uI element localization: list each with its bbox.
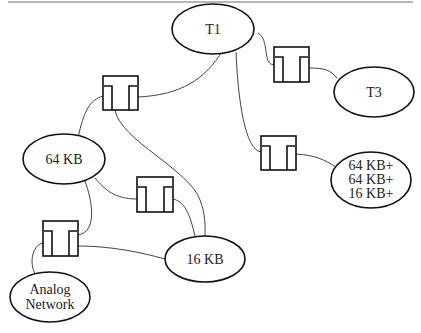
link-sw5-t3 — [309, 68, 337, 78]
link-sw3-16kb — [78, 246, 165, 259]
node-analog-line-2: Network — [26, 297, 75, 312]
node-t1-label: T1 — [205, 22, 221, 37]
node-t3[interactable]: T3 — [334, 67, 414, 117]
link-64kb-sw2 — [95, 178, 137, 199]
node-16kb-label: 16 KB — [187, 252, 224, 267]
link-64kb-sw3 — [78, 181, 92, 235]
node-mixed-rates[interactable]: 64 KB+ 64 KB+ 16 KB+ — [331, 152, 411, 208]
node-64kb-label: 64 KB — [46, 152, 83, 167]
switch-sw1[interactable] — [103, 76, 138, 110]
switch-sw5[interactable] — [274, 47, 309, 82]
node-t3-label: T3 — [366, 85, 382, 100]
switch-icon — [137, 177, 173, 212]
link-t1-sw5 — [258, 33, 274, 65]
node-64kb[interactable]: 64 KB — [23, 134, 105, 184]
switch-icon — [103, 76, 138, 110]
link-t1-sw4 — [236, 52, 261, 152]
switch-icon — [43, 221, 78, 256]
link-sw2-16kb — [173, 199, 195, 236]
network-diagram: T1 T3 64 KB 16 KB 64 KB+ 64 KB+ 16 KB+ A… — [0, 0, 421, 333]
switch-icon — [261, 136, 296, 170]
link-t1-sw1 — [138, 50, 223, 97]
switch-sw4[interactable] — [261, 136, 296, 170]
switch-sw3[interactable] — [43, 221, 78, 256]
link-sw1-16kb — [115, 110, 205, 236]
node-analog-line-1: Analog — [29, 282, 70, 297]
node-mixed-line-3: 16 KB+ — [349, 186, 394, 201]
node-16kb[interactable]: 16 KB — [165, 236, 245, 282]
node-mixed-line-1: 64 KB+ — [349, 158, 394, 173]
link-sw1-64kb — [78, 96, 103, 138]
node-mixed-line-2: 64 KB+ — [349, 172, 394, 187]
switch-icon — [274, 47, 309, 82]
switch-sw2[interactable] — [137, 177, 173, 212]
node-t1[interactable]: T1 — [172, 4, 254, 54]
link-sw4-mixed — [296, 154, 336, 167]
node-analog-network[interactable]: Analog Network — [10, 272, 90, 322]
